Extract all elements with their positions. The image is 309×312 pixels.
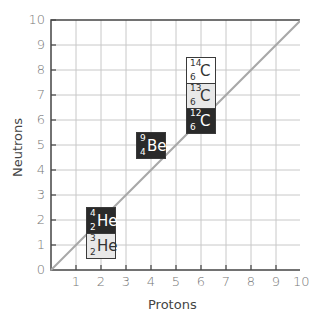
y-tick-label: 3 xyxy=(23,188,45,201)
y-tick-label: 1 xyxy=(23,238,45,251)
atomic-number: 6 xyxy=(190,98,196,107)
element-symbol: Be xyxy=(147,139,167,154)
x-tick-label: 8 xyxy=(243,275,259,288)
x-tick-label: 1 xyxy=(68,275,84,288)
isotope-box-c-14: 146C xyxy=(186,57,216,84)
mass-number: 4 xyxy=(90,209,96,218)
y-axis-title: Neutrons xyxy=(10,113,25,183)
x-tick-label: 2 xyxy=(93,275,109,288)
atomic-number: 2 xyxy=(90,248,96,257)
x-axis-title: Protons xyxy=(148,297,197,312)
element-symbol: C xyxy=(200,114,210,129)
isotope-box-be-9: 94Be xyxy=(136,132,166,159)
element-symbol: He xyxy=(97,214,118,229)
atomic-number: 6 xyxy=(190,123,196,132)
isotope-box-he-4: 42He xyxy=(86,207,116,234)
y-tick-label: 0 xyxy=(23,263,45,276)
x-tick-label: 7 xyxy=(218,275,234,288)
x-tick-label: 9 xyxy=(268,275,284,288)
x-tick-label: 6 xyxy=(193,275,209,288)
y-tick-label: 8 xyxy=(23,63,45,76)
y-tick-label: 2 xyxy=(23,213,45,226)
element-symbol: C xyxy=(200,89,210,104)
isotope-box-c-13: 136C xyxy=(186,82,216,109)
element-symbol: C xyxy=(200,64,210,79)
y-tick-label: 7 xyxy=(23,88,45,101)
y-tick-label: 6 xyxy=(23,113,45,126)
x-tick-label: 5 xyxy=(168,275,184,288)
mass-number: 3 xyxy=(90,234,96,243)
y-tick-label: 4 xyxy=(23,163,45,176)
x-tick-label: 10 xyxy=(293,275,309,288)
y-tick-label: 9 xyxy=(23,38,45,51)
atomic-number: 4 xyxy=(140,148,146,157)
isotope-box-c-12: 126C xyxy=(186,107,216,134)
y-tick-label: 10 xyxy=(23,13,45,26)
x-tick-label: 3 xyxy=(118,275,134,288)
x-tick-label: 4 xyxy=(143,275,159,288)
atomic-number: 2 xyxy=(90,223,96,232)
isotope-box-he-3: 32He xyxy=(86,232,116,259)
element-symbol: He xyxy=(97,239,118,254)
mass-number: 9 xyxy=(140,134,146,143)
atomic-number: 6 xyxy=(190,73,196,82)
y-tick-label: 5 xyxy=(23,138,45,151)
